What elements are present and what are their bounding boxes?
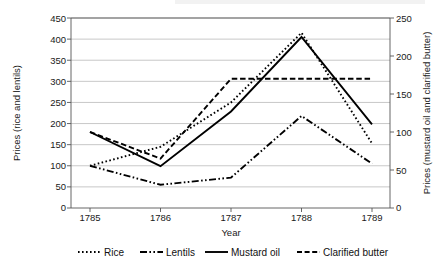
right-tick-250: 250 [396,13,412,24]
left-tick-200: 200 [50,118,66,129]
tick-marks [67,18,394,212]
x-axis-tick-labels: 1785 1786 1787 1788 1789 [79,212,382,223]
left-tick-100: 100 [50,160,66,171]
left-axis-tick-labels: 450 400 350 300 250 200 150 100 50 0 [50,13,66,214]
right-tick-50: 50 [396,165,407,176]
series-line-lentils [90,116,372,185]
left-tick-0: 0 [61,202,66,213]
right-axis-tick-labels: 250 200 150 100 50 0 [396,13,412,214]
y-axis-title-right: Prices (mustard oil and clarified butter… [421,32,432,195]
x-tick-1787: 1787 [220,212,241,223]
left-tick-50: 50 [55,181,66,192]
gridlines [71,18,390,187]
right-tick-0: 0 [396,202,401,213]
x-tick-1786: 1786 [150,212,171,223]
legend: Rice Lentils Mustard oil Clarified butte… [78,247,389,258]
line-chart: 450 400 350 300 250 200 150 100 50 0 250… [0,0,445,267]
right-tick-200: 200 [396,51,412,62]
left-tick-400: 400 [50,34,66,45]
legend-item-rice[interactable]: Rice [78,247,124,258]
legend-label-lentils: Lentils [166,247,195,258]
x-axis-title: Year [221,227,240,238]
y-axis-title-left: Prices (rice and lentils) [11,65,22,161]
legend-item-lentils[interactable]: Lentils [140,247,195,258]
legend-label-mustard-oil: Mustard oil [231,247,280,258]
left-tick-150: 150 [50,139,66,150]
series-group [90,33,372,185]
left-tick-350: 350 [50,55,66,66]
legend-label-rice: Rice [104,247,124,258]
legend-item-clarified-butter[interactable]: Clarified butter [297,247,389,258]
left-tick-300: 300 [50,76,66,87]
x-tick-1789: 1789 [361,212,382,223]
x-tick-1788: 1788 [291,212,312,223]
left-tick-250: 250 [50,97,66,108]
x-tick-1785: 1785 [79,212,100,223]
left-tick-450: 450 [50,13,66,24]
series-line-rice [90,33,372,166]
cropped-top-text [175,0,425,4]
right-tick-100: 100 [396,127,412,138]
right-tick-150: 150 [396,89,412,100]
legend-item-mustard-oil[interactable]: Mustard oil [205,247,280,258]
series-line-clarified-butter [90,79,372,159]
legend-label-clarified-butter: Clarified butter [323,247,389,258]
chart-container: 450 400 350 300 250 200 150 100 50 0 250… [0,0,445,267]
